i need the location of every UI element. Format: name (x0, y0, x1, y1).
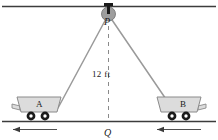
label-point-q: Q (104, 128, 111, 138)
label-cart-b: B (180, 100, 186, 109)
cart-b-body (157, 97, 201, 112)
cable-left (58, 17, 107, 108)
cart-b-wheel-front-hub (184, 114, 187, 117)
cart-a-wheel-front-hub (43, 114, 46, 117)
pulley-cart-diagram: P Q 12 ft A B (0, 0, 218, 140)
label-point-p: P (104, 17, 110, 27)
cart-b-wheel-rear-hub (170, 114, 173, 117)
cable-right (110, 17, 172, 108)
cart-a-wheel-rear-hub (29, 114, 32, 117)
arrow-right-motion (157, 127, 201, 132)
pulley-stem-icon (107, 3, 110, 14)
label-cart-a: A (36, 100, 43, 109)
label-distance: 12 ft (92, 70, 110, 79)
arrow-left-motion (13, 127, 57, 132)
